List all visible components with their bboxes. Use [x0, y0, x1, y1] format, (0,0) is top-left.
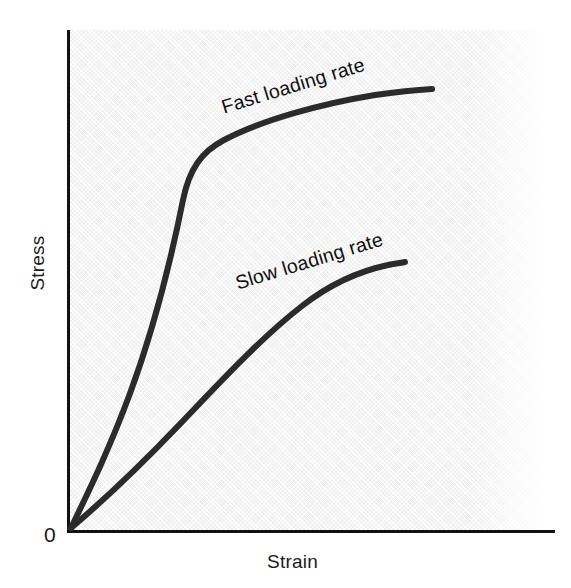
curve-slow-loading-rate [71, 262, 405, 528]
curve-fast-loading-rate [71, 89, 432, 528]
stress-strain-figure: 0 Stress Strain Fast loading rate Slow l… [0, 0, 571, 588]
y-axis-label: Stress [27, 203, 49, 323]
x-axis-label-wrap: Strain [0, 551, 571, 573]
origin-label: 0 [44, 524, 56, 545]
x-axis-label: Strain [253, 551, 318, 573]
